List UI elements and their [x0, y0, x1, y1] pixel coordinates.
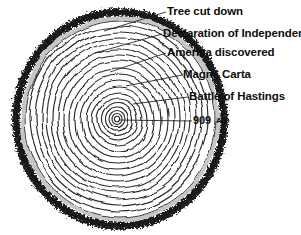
- label-battle-of-hastings: Battle of Hastings: [189, 91, 285, 103]
- label-declaration-independence: Declaration of Independence: [163, 28, 301, 40]
- label-america-discovered: America discovered: [167, 47, 275, 59]
- label-magna-carta: Magna Carta: [183, 69, 251, 81]
- label-year-909: 909: [193, 115, 211, 126]
- tree-ring-diagram: Tree cut down Declaration of Independenc…: [0, 0, 301, 235]
- label-year-909-era: A.D: [216, 117, 229, 125]
- label-tree-cut-down: Tree cut down: [167, 6, 243, 18]
